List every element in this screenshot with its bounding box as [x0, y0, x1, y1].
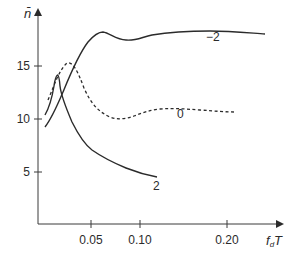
plot-area: [0, 0, 303, 258]
y-tick-label-15: 15: [10, 60, 30, 72]
x-tick-label-0.20: 0.20: [215, 234, 238, 246]
chart: n̄ fdT 15 10 5 0.05 0.10 0.20 −2 0 2: [0, 0, 303, 258]
curve-label-zero: 0: [177, 108, 184, 120]
x-label-t: T: [274, 233, 282, 248]
x-tick-label-0.05: 0.05: [79, 234, 102, 246]
curve-plus2: [45, 75, 157, 177]
curve-label-minus2: −2: [206, 31, 220, 43]
curve-zero: [48, 63, 236, 119]
x-axis-label: fdT: [266, 234, 282, 249]
curve-label-plus2: 2: [153, 180, 160, 192]
y-tick-label-10: 10: [10, 113, 30, 125]
y-tick-label-5: 5: [10, 166, 30, 178]
y-axis-label: n̄: [24, 7, 31, 20]
x-tick-label-0.10: 0.10: [128, 234, 151, 246]
